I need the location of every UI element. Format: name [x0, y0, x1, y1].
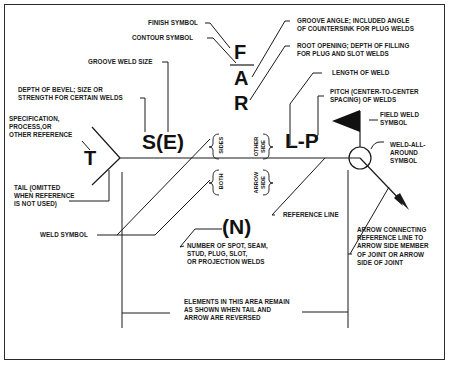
field-weld-flag [332, 110, 360, 132]
root-opening-callout: ROOT OPENING; DEPTH OF FILLING FOR PLUG … [297, 42, 409, 58]
pitch-callout: PITCH (CENTER-TO-CENTER SPACING) OF WELD… [330, 88, 419, 104]
length-of-weld-callout: LENGTH OF WELD [332, 69, 389, 77]
contour-symbol-callout: CONTOUR SYMBOL [132, 34, 193, 42]
reference-line-callout: REFERENCE LINE [283, 211, 339, 219]
other-side-label: OTHER SIDE [253, 134, 266, 160]
groove-weld-size-callout: GROOVE WELD SIZE [88, 58, 152, 66]
field-weld-symbol-callout: FIELD WELD SYMBOL [380, 111, 419, 127]
both-label: BOTH [218, 168, 225, 194]
arrow-side-label: ARROW SIDE [253, 170, 266, 196]
groove-angle-callout: GROOVE ANGLE; INCLUDED ANGLE OF COUNTERS… [297, 17, 414, 33]
number-of-welds-symbol: (N) [222, 216, 251, 237]
groove-angle-letter: A [234, 68, 248, 88]
elements-area-callout: ELEMENTS IN THIS AREA REMAIN AS SHOWN WH… [184, 298, 290, 323]
root-opening-letter: R [234, 93, 248, 113]
weld-symbol-callout: WELD SYMBOL [40, 231, 88, 239]
finish-symbol-callout: FINISH SYMBOL [148, 19, 198, 27]
arrow-connecting-callout: ARROW CONNECTING REFERENCE LINE TO ARROW… [357, 226, 429, 267]
finish-symbol-letter: F [234, 42, 246, 62]
tail-reference-letter: T [84, 148, 96, 168]
specification-callout: SPECIFICATION, PROCESS,OR OTHER REFERENC… [9, 115, 72, 140]
weld-all-around-callout: WELD-ALL- AROUND SYMBOL [390, 141, 425, 166]
depth-of-bevel-callout: DEPTH OF BEVEL; SIZE OR STRENGTH FOR CER… [18, 86, 123, 102]
tail-callout: TAIL (OMITTED WHEN REFERENCE IS NOT USED… [14, 184, 75, 209]
sides-label: SIDES [218, 132, 225, 158]
number-of-welds-callout: NUMBER OF SPOT, SEAM, STUD, PLUG, SLOT, … [187, 242, 268, 267]
size-symbol: S(E) [142, 131, 184, 152]
length-pitch-symbol: L-P [285, 130, 319, 151]
